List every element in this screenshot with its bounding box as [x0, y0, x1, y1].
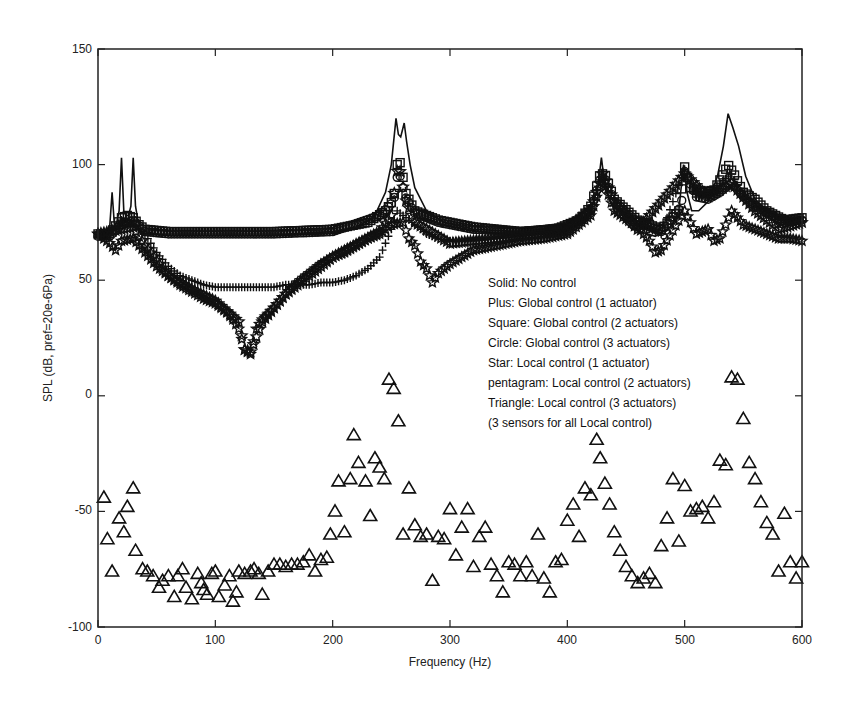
circle-marker — [678, 196, 686, 204]
triangle-marker — [655, 540, 668, 551]
x-tick-label: 100 — [205, 633, 225, 647]
triangle-marker — [329, 505, 342, 516]
triangle-marker — [461, 503, 474, 514]
triangle-marker — [743, 456, 756, 467]
axis-ticks — [98, 49, 802, 627]
triangle-marker — [594, 452, 607, 463]
legend-line-triangle: Triangle: Local control (3 actuators) — [488, 396, 676, 410]
triangle-marker — [708, 496, 721, 507]
triangle-marker — [347, 429, 360, 440]
triangle-marker — [749, 473, 762, 484]
legend-line-pentagram: pentagram: Local control (2 actuators) — [488, 376, 691, 390]
triangle-marker — [737, 412, 750, 423]
x-tick-label: 600 — [792, 633, 812, 647]
triangle-marker — [117, 526, 130, 537]
spl-frequency-chart: 0 100 200 300 400 500 600 -100 -50 0 50 … — [0, 0, 854, 704]
triangle-marker — [230, 586, 243, 597]
triangle-marker — [760, 516, 773, 527]
triangle-marker — [191, 567, 204, 578]
triangle-marker — [661, 512, 674, 523]
series-triangle — [97, 371, 808, 606]
triangle-marker — [520, 556, 533, 567]
triangle-marker — [561, 514, 574, 525]
y-tick-label: 150 — [72, 42, 92, 56]
triangle-marker — [620, 560, 633, 571]
triangle-marker — [338, 526, 351, 537]
legend-line-solid: Solid: No control — [488, 276, 576, 290]
triangle-marker — [449, 549, 462, 560]
x-tick-label: 300 — [440, 633, 460, 647]
triangle-marker — [590, 433, 603, 444]
triangle-marker — [526, 570, 539, 581]
triangle-marker — [603, 498, 616, 509]
legend-line-plus: Plus: Global control (1 actuator) — [488, 296, 657, 310]
triangle-marker — [790, 572, 803, 583]
plot-area — [93, 114, 809, 606]
triangle-marker — [754, 496, 767, 507]
triangle-marker — [106, 565, 119, 576]
triangle-marker — [256, 588, 269, 599]
y-tick-label: -100 — [68, 620, 92, 634]
legend-line-circle: Circle: Global control (3 actuators) — [488, 336, 670, 350]
y-tick-label: -50 — [75, 503, 93, 517]
triangle-marker — [543, 586, 556, 597]
triangle-marker — [614, 544, 627, 555]
x-axis-label: Frequency (Hz) — [409, 655, 492, 669]
triangle-marker — [496, 586, 509, 597]
triangle-marker — [567, 498, 580, 509]
triangle-marker — [426, 574, 439, 585]
y-tick-label: 0 — [85, 387, 92, 401]
triangle-marker — [364, 510, 377, 521]
triangle-marker — [352, 456, 365, 467]
triangle-marker — [180, 581, 193, 592]
legend-line-star: Star: Local control (1 actuator) — [488, 356, 649, 370]
plot-frame — [98, 49, 802, 627]
triangle-marker — [678, 479, 691, 490]
x-tick-label: 0 — [95, 633, 102, 647]
triangle-marker — [455, 521, 468, 532]
triangle-marker — [672, 535, 685, 546]
triangle-marker — [778, 507, 791, 518]
legend-line-square: Square: Global control (2 actuators) — [488, 316, 678, 330]
triangle-marker — [598, 477, 611, 488]
triangle-marker — [129, 544, 142, 555]
y-axis-label: SPL (dB, pref=20e-6Pa) — [41, 274, 55, 402]
triangle-marker — [344, 473, 357, 484]
triangle-marker — [666, 473, 679, 484]
triangle-marker — [324, 528, 337, 539]
triangle-marker — [408, 519, 421, 530]
triangle-marker — [97, 491, 110, 502]
triangle-marker — [176, 563, 189, 574]
triangle-marker — [479, 521, 492, 532]
triangle-marker — [121, 500, 134, 511]
plus-marker — [379, 246, 387, 254]
triangle-marker — [467, 560, 480, 571]
triangle-marker — [378, 473, 391, 484]
y-tick-labels: -100 -50 0 50 100 150 — [68, 42, 92, 634]
triangle-marker — [101, 533, 114, 544]
triangle-marker — [359, 475, 372, 486]
triangle-marker — [485, 558, 498, 569]
triangle-marker — [444, 503, 457, 514]
y-tick-label: 100 — [72, 157, 92, 171]
legend-annotation: Solid: No control Plus: Global control (… — [488, 276, 691, 430]
x-tick-label: 200 — [323, 633, 343, 647]
triangle-marker — [113, 512, 126, 523]
triangle-marker — [608, 526, 621, 537]
triangle-marker — [490, 570, 503, 581]
y-tick-label: 50 — [79, 272, 93, 286]
legend-line-note: (3 sensors for all Local control) — [488, 416, 652, 430]
triangle-marker — [514, 570, 527, 581]
triangle-marker — [402, 482, 415, 493]
x-tick-label: 500 — [675, 633, 695, 647]
triangle-marker — [392, 415, 405, 426]
triangle-marker — [573, 530, 586, 541]
x-tick-labels: 0 100 200 300 400 500 600 — [95, 633, 813, 647]
triangle-marker — [153, 581, 166, 592]
plus-marker — [381, 239, 389, 247]
x-tick-label: 400 — [557, 633, 577, 647]
triangle-marker — [766, 528, 779, 539]
triangle-marker — [532, 528, 545, 539]
triangle-marker — [127, 482, 140, 493]
triangle-marker — [784, 556, 797, 567]
